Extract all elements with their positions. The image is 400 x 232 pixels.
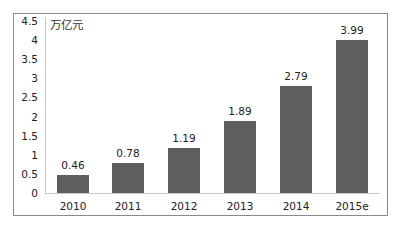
y-tick-label: 2 — [8, 111, 38, 123]
bar-2013 — [224, 121, 256, 193]
bar-2014 — [280, 86, 312, 193]
bar-2015e — [336, 40, 368, 193]
bar-2010 — [57, 175, 89, 193]
y-tick-label: 3 — [8, 72, 38, 84]
x-tick-label: 2014 — [271, 200, 321, 212]
value-label: 1.89 — [215, 105, 265, 117]
x-tick-label: 2011 — [103, 200, 153, 212]
value-label: 1.19 — [159, 132, 209, 144]
value-label: 0.78 — [103, 147, 153, 159]
y-tick-label: 1 — [8, 149, 38, 161]
value-label: 2.79 — [271, 70, 321, 82]
y-tick-label: 2.5 — [8, 91, 38, 103]
y-tick-label: 0 — [8, 187, 38, 199]
y-tick-label: 3.5 — [8, 53, 38, 65]
bar-2011 — [112, 163, 144, 193]
unit-label: 万亿元 — [50, 16, 83, 32]
value-label: 0.46 — [48, 159, 98, 171]
value-label: 3.99 — [327, 24, 377, 36]
y-tick-label: 0.5 — [8, 168, 38, 180]
y-tick-label: 4 — [8, 34, 38, 46]
x-tick-label: 2015e — [327, 200, 377, 212]
x-axis-line — [45, 193, 380, 194]
x-tick-label: 2012 — [159, 200, 209, 212]
y-tick-label: 1.5 — [8, 130, 38, 142]
x-tick-label: 2010 — [48, 200, 98, 212]
bar-2012 — [168, 148, 200, 193]
y-tick-label: 4.5 — [8, 15, 38, 27]
y-axis-line — [45, 17, 46, 193]
x-tick-label: 2013 — [215, 200, 265, 212]
